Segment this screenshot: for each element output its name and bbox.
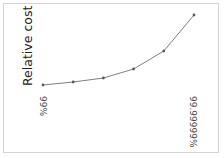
data-point-2 bbox=[102, 77, 105, 80]
plot-area bbox=[42, 14, 196, 87]
y-axis-label: Relative cost bbox=[20, 6, 35, 86]
data-point-5 bbox=[193, 14, 196, 17]
x-tick-label-last: 99.99999% bbox=[188, 96, 198, 148]
x-tick-label-first: 99% bbox=[38, 96, 48, 116]
series-line bbox=[43, 15, 194, 85]
line-chart: Relative cost 99% 99.99999% bbox=[0, 0, 224, 158]
data-point-0 bbox=[42, 84, 45, 87]
data-point-1 bbox=[72, 81, 75, 84]
data-point-4 bbox=[162, 50, 165, 53]
data-point-3 bbox=[132, 68, 135, 71]
